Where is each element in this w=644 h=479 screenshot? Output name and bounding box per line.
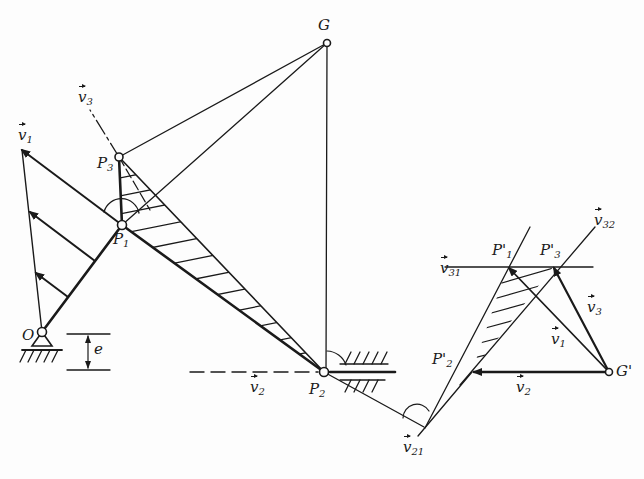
label-P1: P1 [113, 232, 129, 249]
joint-P3 [115, 153, 123, 161]
label-P2-prime: P'2 [432, 352, 453, 369]
label-v21: v21 [403, 440, 424, 457]
joint-G [324, 40, 331, 47]
ray-G-P3 [119, 43, 327, 157]
v1-prime-vector [509, 268, 609, 372]
label-v2-right: v2 [516, 380, 531, 397]
link-P3-P1 [119, 157, 122, 225]
link-P1-P2 [122, 225, 324, 372]
right-angle-marker-v21 [403, 404, 429, 418]
label-G: G [318, 18, 330, 33]
label-v2-left: v2 [250, 380, 265, 397]
velocity-arrow-mid [30, 212, 95, 261]
label-P3-prime: P'3 [540, 243, 561, 260]
joint-O [38, 328, 47, 337]
label-G-prime: G' [616, 364, 632, 379]
eccentricity-dimension [67, 334, 110, 370]
ray-G-P1 [122, 43, 327, 225]
v3-direction-line [90, 110, 119, 157]
velocity-arrow-low [36, 273, 68, 297]
ray-G-P2 [326, 43, 327, 372]
right-angle-marker-P2 [327, 351, 346, 365]
label-e: e [94, 342, 103, 357]
label-P3: P3 [97, 156, 113, 173]
v3-prime-vector [554, 268, 609, 372]
coupler-hatching [100, 168, 340, 372]
label-v1-right: v1 [551, 332, 566, 349]
velocity-envelope-line [22, 150, 42, 332]
label-v31: v31 [440, 261, 461, 278]
kinematic-diagram: v1 v3 P3 P1 O e G v2 P2 v21 v31 P'1 P'3 … [0, 0, 644, 479]
joints [38, 40, 613, 377]
joint-P2 [320, 368, 329, 377]
label-P1-prime: P'1 [492, 243, 513, 260]
diagram-drawing [0, 0, 644, 479]
joint-G-prime [606, 369, 613, 376]
label-v3-left: v3 [78, 90, 93, 107]
label-v32: v32 [594, 213, 615, 230]
label-v3-right: v3 [587, 300, 602, 317]
joint-P1 [118, 221, 127, 230]
label-O: O [22, 328, 34, 343]
crank-O-P1 [42, 225, 122, 332]
velocity-polygon-hatching [460, 266, 560, 374]
label-P2: P2 [309, 382, 325, 399]
link-P3-P2 [119, 157, 324, 372]
label-v1: v1 [18, 128, 33, 145]
